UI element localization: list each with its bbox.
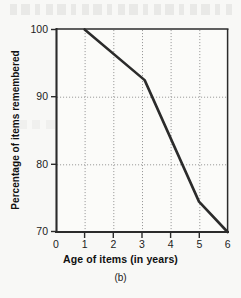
- x-tick-label-3: 3: [132, 238, 152, 250]
- x-tick-label-5: 5: [189, 238, 209, 250]
- figure-panel-b: 100 90 80 70 0 1 2 3 4 5 6 Percentage of…: [0, 0, 241, 298]
- x-tick-label-0: 0: [46, 238, 66, 250]
- y-axis-ticks: [51, 30, 56, 232]
- panel-caption: (b): [0, 272, 241, 283]
- x-tick-label-4: 4: [161, 238, 181, 250]
- y-axis-title-container: Percentage of items remembered: [6, 26, 24, 234]
- x-tick-label-2: 2: [103, 238, 123, 250]
- x-axis-title: Age of items (in years): [0, 253, 241, 265]
- x-tick-label-6: 6: [218, 238, 238, 250]
- x-tick-label-1: 1: [75, 238, 95, 250]
- y-axis-title: Percentage of items remembered: [10, 50, 21, 209]
